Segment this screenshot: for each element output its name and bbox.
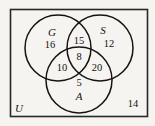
circle-set-g — [25, 15, 91, 81]
venn-diagram-canvas — [0, 0, 155, 126]
universe-rectangle — [11, 10, 148, 117]
venn-diagram-figure: G 16 S 12 15 8 10 20 5 A U 14 — [0, 0, 155, 126]
circle-set-a — [46, 47, 112, 113]
circle-set-s — [67, 15, 133, 81]
